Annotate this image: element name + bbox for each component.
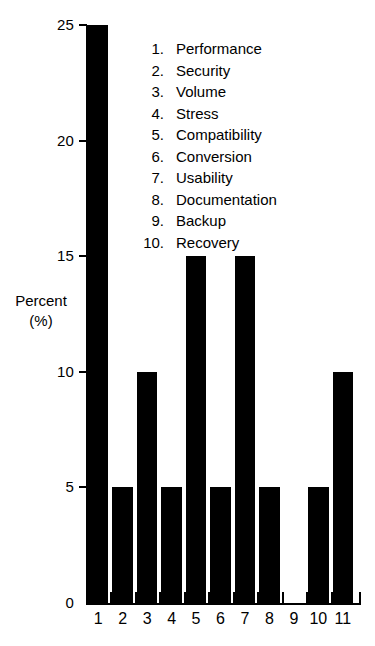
bar [88,25,108,603]
y-tick-label: 5 [65,479,74,494]
bar [161,487,181,603]
y-axis-title: Percent (%) [4,291,78,331]
y-tick-label: 15 [57,248,74,263]
x-tick-mark [233,592,235,603]
legend-item: 3.Volume [130,81,277,103]
legend-item-number: 8. [130,189,164,211]
legend-item: 1.Performance [130,38,277,60]
x-axis-line [86,603,361,605]
y-tick-label: 25 [57,17,74,32]
legend: 1.Performance2.Security3.Volume4.Stress5… [130,38,277,253]
legend-item-number: 2. [130,60,164,82]
x-tick-mark [282,592,284,603]
legend-item: 8.Documentation [130,189,277,211]
y-tick-mark [79,486,87,488]
y-tick-label: 0 [65,595,74,610]
x-tick-mark [331,592,333,603]
legend-item: 5.Compatibility [130,124,277,146]
y-axis-title-line-2: (%) [4,311,78,331]
legend-item-number: 3. [130,81,164,103]
bar [333,372,353,603]
bar [308,487,328,603]
bar [137,372,157,603]
x-tick-mark [359,592,361,603]
x-tick-mark [184,592,186,603]
legend-item-number: 9. [130,210,164,232]
legend-item-number: 6. [130,146,164,168]
bar [210,487,230,603]
y-tick-mark [79,255,87,257]
y-tick-label: 20 [57,133,74,148]
legend-item: 9.Backup [130,210,277,232]
legend-item-label: Volume [164,81,226,103]
legend-item: 7.Usability [130,167,277,189]
x-tick-label: 11 [328,610,358,628]
x-tick-mark [110,592,112,603]
legend-item: 10.Recovery [130,232,277,254]
legend-item-label: Documentation [164,189,277,211]
legend-item-label: Performance [164,38,262,60]
legend-item-number: 7. [130,167,164,189]
y-tick-mark [79,140,87,142]
legend-item-label: Recovery [164,232,239,254]
legend-item: 6.Conversion [130,146,277,168]
bar [112,487,132,603]
x-tick-mark [159,592,161,603]
bar [259,487,279,603]
legend-item: 4.Stress [130,103,277,125]
legend-item-label: Stress [164,103,219,125]
bar-chart: 0510152025 Percent (%) 1234567891011 1.P… [0,0,375,646]
legend-item: 2.Security [130,60,277,82]
y-axis-title-line-1: Percent [15,292,67,309]
y-tick-mark [79,24,87,26]
legend-item-label: Compatibility [164,124,262,146]
legend-item-label: Conversion [164,146,252,168]
x-tick-mark [86,592,88,603]
legend-item-number: 5. [130,124,164,146]
x-tick-mark [257,592,259,603]
y-tick-mark [79,371,87,373]
bar [235,256,255,603]
legend-item-number: 4. [130,103,164,125]
y-tick-label: 10 [57,364,74,379]
x-tick-mark [306,592,308,603]
x-tick-mark [208,592,210,603]
legend-item-number: 1. [130,38,164,60]
legend-item-label: Security [164,60,230,82]
legend-item-label: Backup [164,210,226,232]
bar [186,256,206,603]
x-tick-mark [135,592,137,603]
legend-item-label: Usability [164,167,233,189]
legend-item-number: 10. [130,232,164,254]
